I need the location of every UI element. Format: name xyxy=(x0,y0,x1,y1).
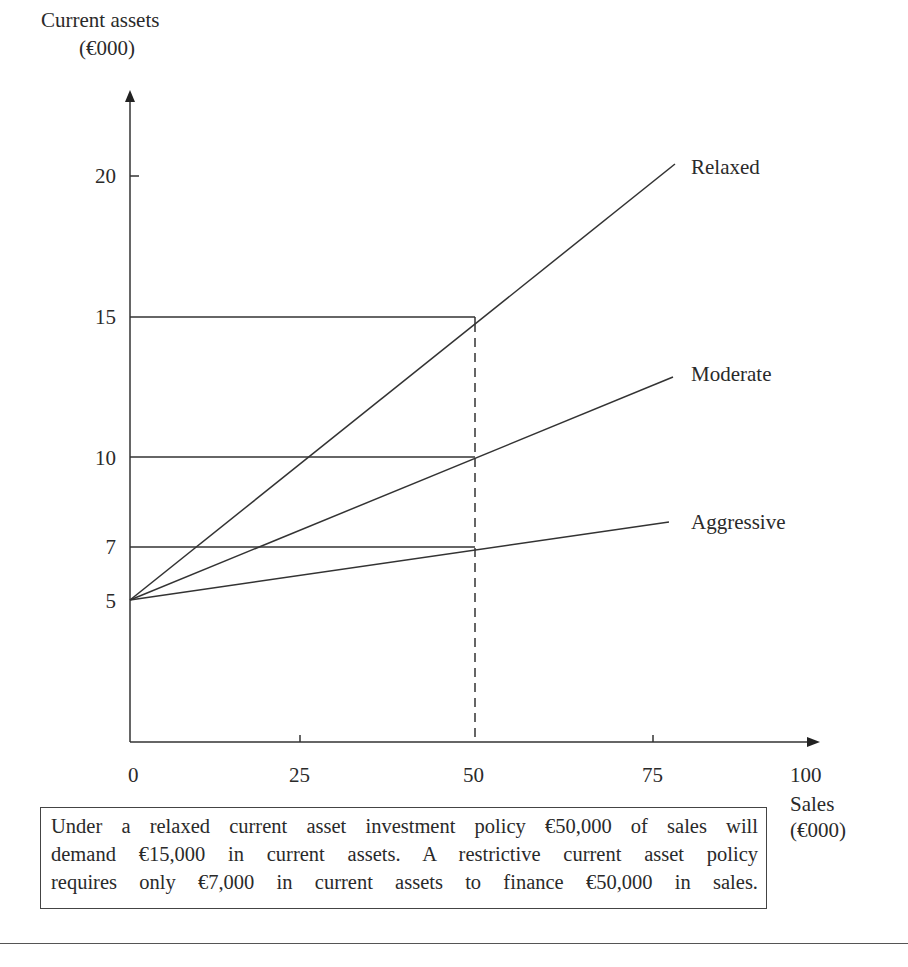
moderate-line xyxy=(130,377,673,600)
y-tick-label-10: 10 xyxy=(76,446,116,470)
x-tick-label-0: 0 xyxy=(128,763,139,787)
y-tick-label-5: 5 xyxy=(76,589,116,613)
x-tick-label-100: 100 xyxy=(790,763,822,787)
caption-line-2: demand €15,000 in current assets. A rest… xyxy=(51,840,758,868)
y-axis-title: Current assets xyxy=(41,8,159,32)
y-tick-label-15: 15 xyxy=(76,305,116,329)
x-axis-title: Sales xyxy=(790,792,834,816)
y-axis-unit: (€000) xyxy=(79,36,135,60)
caption-box: Under a relaxed current asset investment… xyxy=(40,807,767,909)
x-axis-arrow-icon xyxy=(807,737,820,747)
legend-moderate: Moderate xyxy=(691,362,771,386)
x-tick-label-75: 75 xyxy=(642,763,663,787)
aggressive-line xyxy=(130,522,669,600)
y-tick-label-20: 20 xyxy=(76,164,116,188)
legend-relaxed: Relaxed xyxy=(691,155,760,179)
legend-aggressive: Aggressive xyxy=(691,510,785,534)
y-axis-arrow-icon xyxy=(125,90,135,102)
y-tick-label-7: 7 xyxy=(76,535,116,559)
relaxed-line xyxy=(130,164,675,600)
bottom-divider xyxy=(0,943,908,944)
x-tick-label-25: 25 xyxy=(289,763,310,787)
x-axis-unit: (€000) xyxy=(790,818,846,842)
caption-line-1: Under a relaxed current asset investment… xyxy=(51,812,758,840)
x-tick-label-50: 50 xyxy=(463,763,484,787)
caption-line-3: requires only €7,000 in current assets t… xyxy=(51,868,758,896)
